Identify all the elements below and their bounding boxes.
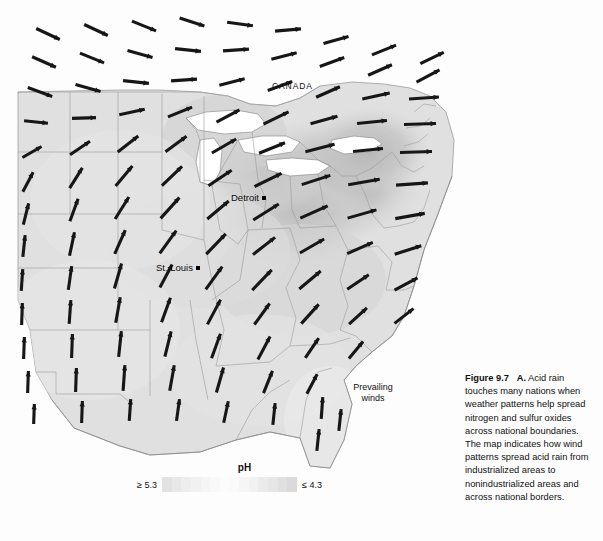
figure-caption: Figure 9.7 A. Acid rain touches many nat… [465, 372, 597, 504]
city-label-detroit: Detroit [231, 192, 259, 203]
legend-title: pH [137, 462, 352, 473]
legend-swatch-11 [268, 477, 278, 492]
legend-swatch-8 [239, 477, 249, 492]
legend-swatch-12 [278, 477, 288, 492]
legend-row: ≥ 5.3 ≤ 4.3 [137, 477, 322, 492]
ph-legend: pH ≥ 5.3 ≤ 4.3 [137, 462, 352, 502]
legend-swatch-1 [172, 477, 182, 492]
prevailing-winds-annotation: Prevailing winds [340, 382, 406, 404]
legend-swatch-5 [210, 477, 220, 492]
city-label-st-louis: St. Louis [156, 262, 193, 273]
city-marker-st-louis: St. Louis [156, 262, 200, 273]
city-dot-st-louis [196, 266, 200, 270]
legend-swatch-4 [201, 477, 211, 492]
legend-gradient-bar [162, 477, 297, 492]
country-label-canada: CANADA [272, 81, 313, 91]
legend-swatch-3 [191, 477, 201, 492]
figure-root: CANADA Detroit St. Louis Prevailing wind… [0, 0, 603, 541]
legend-low-label: ≥ 5.3 [137, 480, 157, 490]
legend-high-label: ≤ 4.3 [302, 480, 322, 490]
prevailing-winds-line2: winds [340, 393, 406, 404]
map-label-layer: CANADA Detroit St. Louis Prevailing wind… [0, 0, 462, 470]
legend-swatch-10 [258, 477, 268, 492]
legend-swatch-13 [287, 477, 297, 492]
legend-swatch-2 [181, 477, 191, 492]
figure-part-label: A. [517, 373, 526, 383]
legend-swatch-0 [162, 477, 172, 492]
legend-swatch-7 [229, 477, 239, 492]
legend-swatch-6 [220, 477, 230, 492]
prevailing-winds-line1: Prevailing [340, 382, 406, 393]
legend-swatch-9 [249, 477, 259, 492]
map-area: CANADA Detroit St. Louis Prevailing wind… [0, 0, 462, 470]
figure-number: Figure 9.7 [465, 373, 509, 383]
city-dot-detroit [262, 196, 266, 200]
caption-body: Acid rain touches many nations when weat… [465, 373, 589, 502]
city-marker-detroit: Detroit [231, 192, 266, 203]
